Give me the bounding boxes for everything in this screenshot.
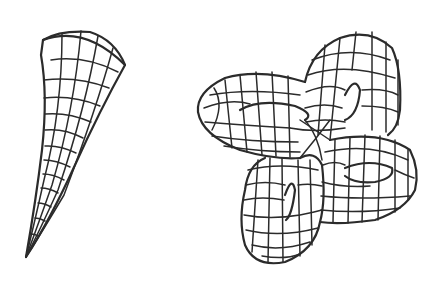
left-lobe <box>198 72 308 158</box>
four-lobed-surface <box>198 32 417 263</box>
figure-canvas <box>0 0 446 292</box>
bottom-left-lobe <box>242 155 324 263</box>
center-crossing <box>290 120 345 160</box>
bottom-right-lobe <box>320 135 417 223</box>
top-right-lobe <box>305 32 400 140</box>
four-lobed-surface-figure <box>0 0 446 292</box>
